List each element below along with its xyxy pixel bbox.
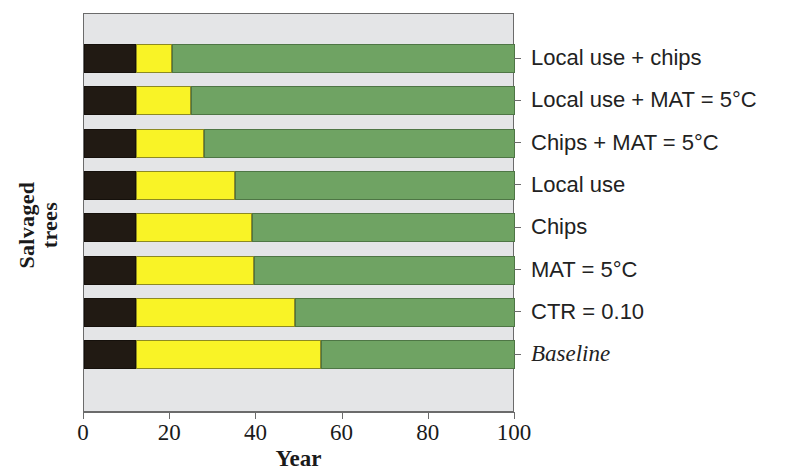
y-axis-tick <box>514 354 521 355</box>
category-label: Chips <box>531 212 587 241</box>
x-axis-tick <box>255 412 256 419</box>
x-axis-tick <box>83 412 84 419</box>
x-axis-tick-label: 100 <box>479 420 549 446</box>
x-axis-tick <box>514 412 515 419</box>
bar-segment-yellow-segment <box>136 86 191 115</box>
y-axis-tick <box>514 100 521 101</box>
y-axis-tick <box>514 58 521 59</box>
bar-segment-green-segment <box>252 213 515 242</box>
x-axis-tick <box>428 412 429 419</box>
x-axis-tick <box>169 412 170 419</box>
bar-segment-yellow-segment <box>136 298 295 327</box>
category-label: MAT = 5°C <box>531 255 637 284</box>
y-axis-title: Salvaged trees <box>15 125 61 325</box>
category-label: Local use + MAT = 5°C <box>531 85 757 114</box>
bar-segment-green-segment <box>191 86 515 115</box>
category-label: Local use <box>531 170 625 199</box>
y-axis-tick <box>514 227 521 228</box>
bar-chart: Salvaged trees 020406080100 Year Local u… <box>0 0 810 474</box>
bar-segment-yellow-segment <box>136 340 321 369</box>
x-axis-tick-label: 20 <box>134 420 204 446</box>
bar-row <box>84 213 513 242</box>
x-axis-tick-label: 60 <box>307 420 377 446</box>
y-axis-tick <box>514 311 521 312</box>
y-axis-tick <box>514 142 521 143</box>
x-axis-tick <box>342 412 343 419</box>
bar-segment-yellow-segment <box>136 213 252 242</box>
x-axis-tick-label: 0 <box>48 420 118 446</box>
bar-segment-black-segment <box>84 256 136 285</box>
bar-segment-black-segment <box>84 44 136 73</box>
bar-row <box>84 340 513 369</box>
bar-segment-yellow-segment <box>136 256 255 285</box>
bar-segment-yellow-segment <box>136 44 173 73</box>
category-label: CTR = 0.10 <box>531 297 644 326</box>
bar-segment-black-segment <box>84 86 136 115</box>
x-axis-tick-label: 80 <box>393 420 463 446</box>
bar-segment-green-segment <box>321 340 515 369</box>
bar-segment-green-segment <box>254 256 515 285</box>
bar-row <box>84 171 513 200</box>
category-label: Chips + MAT = 5°C <box>531 128 719 157</box>
bar-segment-black-segment <box>84 213 136 242</box>
bar-row <box>84 129 513 158</box>
x-axis-line <box>83 412 514 413</box>
bar-segment-green-segment <box>235 171 515 200</box>
y-axis-tick <box>514 184 521 185</box>
bar-segment-green-segment <box>295 298 515 327</box>
bar-row <box>84 256 513 285</box>
x-axis-title: Year <box>83 446 514 472</box>
bar-row <box>84 86 513 115</box>
bar-row <box>84 298 513 327</box>
bar-segment-green-segment <box>172 44 515 73</box>
bar-segment-black-segment <box>84 340 136 369</box>
bar-segment-green-segment <box>204 129 515 158</box>
bar-segment-black-segment <box>84 298 136 327</box>
x-axis-tick-label: 40 <box>220 420 290 446</box>
plot-area <box>83 13 514 412</box>
bar-segment-black-segment <box>84 171 136 200</box>
bar-segment-yellow-segment <box>136 129 204 158</box>
bar-row <box>84 44 513 73</box>
category-label: Baseline <box>531 339 610 368</box>
y-axis-tick <box>514 269 521 270</box>
bar-segment-yellow-segment <box>136 171 235 200</box>
category-label: Local use + chips <box>531 43 702 72</box>
bar-segment-black-segment <box>84 129 136 158</box>
